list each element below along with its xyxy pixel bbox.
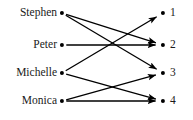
bipartite-graph-diagram: StephenPeterMichelleMonica 1234 <box>0 0 193 120</box>
edge-stephen-to-n3 <box>66 15 157 69</box>
node-label-n3: 3 <box>170 67 176 79</box>
node-label-monica: Monica <box>22 95 57 107</box>
node-label-n4: 4 <box>170 95 176 107</box>
edge-stephen-to-n2 <box>66 14 156 42</box>
node-label-n2: 2 <box>170 39 176 51</box>
edge-monica-to-n3 <box>66 75 156 100</box>
edge-michelle-to-n4 <box>66 74 156 99</box>
node-label-michelle: Michelle <box>16 67 57 79</box>
edge-michelle-to-n1 <box>66 17 157 71</box>
node-label-peter: Peter <box>33 39 57 51</box>
edges-group <box>66 14 157 101</box>
node-label-n1: 1 <box>170 7 176 19</box>
node-label-stephen: Stephen <box>20 7 57 19</box>
